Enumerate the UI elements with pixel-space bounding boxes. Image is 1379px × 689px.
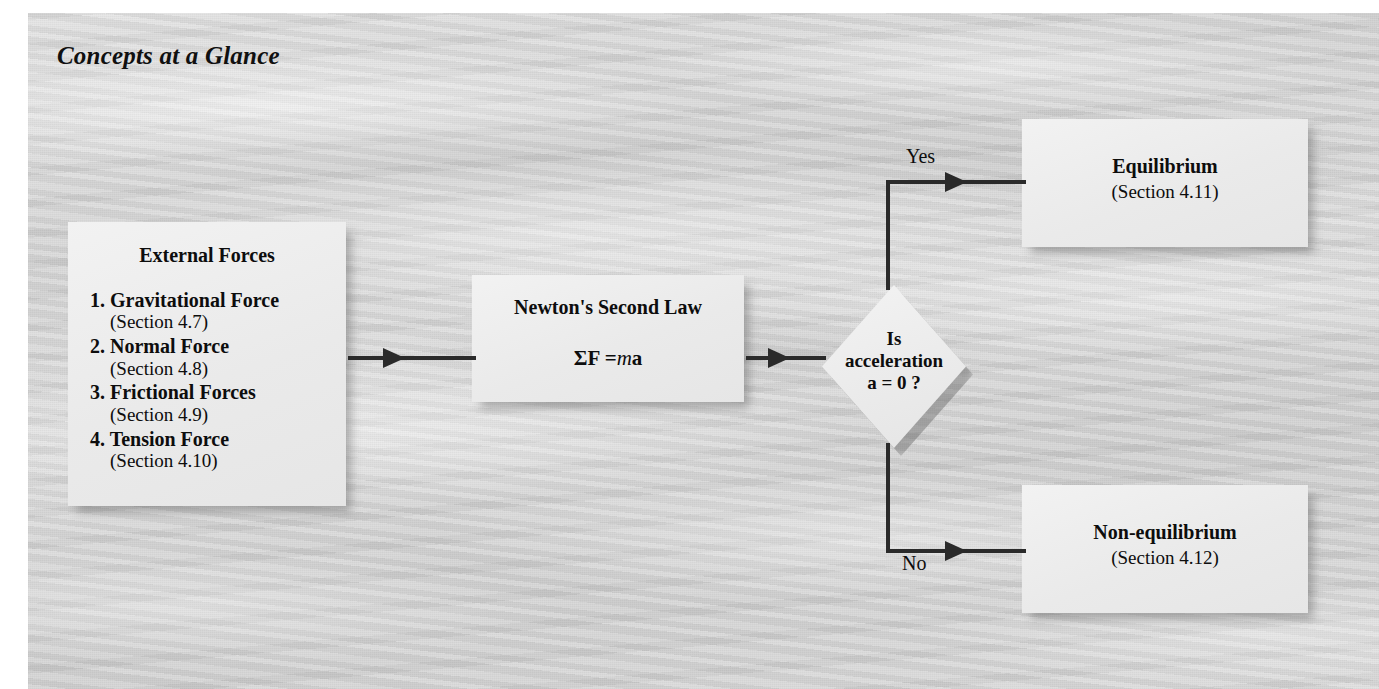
edge-decision-to-equilibrium-vertical [886, 180, 890, 290]
page-title: Concepts at a Glance [57, 42, 280, 70]
newton-equation: ΣF =ma [472, 346, 744, 371]
non-equilibrium-section: (Section 4.12) [1022, 547, 1308, 569]
list-item: 3. Frictional Forces (Section 4.9) [90, 381, 346, 426]
force-item-label: 1. Gravitational Force [90, 289, 346, 311]
edge-label-no: No [902, 552, 926, 575]
equation-acceleration-symbol: a [632, 346, 643, 370]
arrowhead-icon [945, 172, 967, 192]
edge-decision-to-non-equilibrium-vertical [886, 443, 890, 553]
equation-mass-symbol: m [617, 346, 632, 370]
decision-label: Is acceleration a = 0 ? [806, 328, 982, 394]
decision-line-1: Is [806, 328, 982, 350]
edge-external-forces-to-newton [348, 356, 476, 360]
arrowhead-icon [945, 541, 967, 561]
decision-line-2: acceleration [806, 350, 982, 372]
list-item: 1. Gravitational Force (Section 4.7) [90, 289, 346, 334]
force-item-number: 1. [90, 289, 105, 311]
force-item-name: Normal Force [110, 335, 229, 357]
external-forces-heading: External Forces [68, 244, 346, 267]
force-item-name: Tension Force [110, 428, 229, 450]
force-item-section: (Section 4.9) [90, 404, 346, 427]
equation-sigma-f: ΣF = [574, 346, 617, 370]
node-external-forces[interactable]: External Forces 1. Gravitational Force (… [68, 222, 346, 506]
newton-title: Newton's Second Law [472, 296, 744, 319]
node-equilibrium[interactable]: Equilibrium (Section 4.11) [1022, 119, 1308, 247]
external-forces-list: 1. Gravitational Force (Section 4.7) 2. … [68, 289, 346, 473]
force-item-section: (Section 4.7) [90, 311, 346, 334]
force-item-label: 2. Normal Force [90, 335, 346, 357]
figure-canvas: Concepts at a Glance External Forces 1. … [0, 0, 1379, 689]
node-decision-acceleration-zero[interactable]: Is acceleration a = 0 ? [822, 285, 966, 448]
decision-line-3: a = 0 ? [806, 372, 982, 394]
force-item-label: 4. Tension Force [90, 428, 346, 450]
equilibrium-title: Equilibrium [1022, 155, 1308, 178]
force-item-section: (Section 4.10) [90, 450, 346, 473]
node-non-equilibrium[interactable]: Non-equilibrium (Section 4.12) [1022, 485, 1308, 613]
list-item: 4. Tension Force (Section 4.10) [90, 428, 346, 473]
edge-label-yes: Yes [906, 145, 935, 168]
force-item-number: 4. [90, 428, 105, 450]
node-newtons-second-law[interactable]: Newton's Second Law ΣF =ma [472, 275, 744, 402]
force-item-number: 3. [90, 381, 105, 403]
force-item-name: Frictional Forces [110, 381, 256, 403]
force-item-label: 3. Frictional Forces [90, 381, 346, 403]
non-equilibrium-title: Non-equilibrium [1022, 521, 1308, 544]
arrowhead-icon [768, 348, 790, 368]
force-item-name: Gravitational Force [110, 289, 279, 311]
force-item-number: 2. [90, 335, 105, 357]
force-item-section: (Section 4.8) [90, 358, 346, 381]
list-item: 2. Normal Force (Section 4.8) [90, 335, 346, 380]
arrowhead-icon [383, 348, 405, 368]
equilibrium-section: (Section 4.11) [1022, 181, 1308, 203]
